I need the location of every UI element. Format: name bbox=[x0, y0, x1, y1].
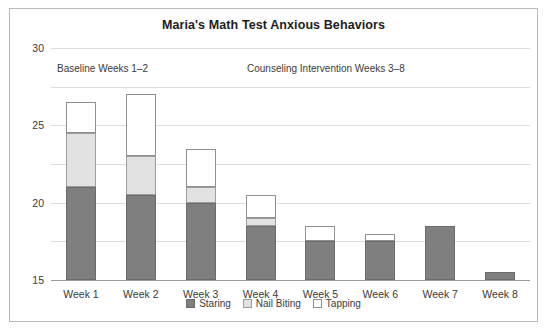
bar-segment-staring[interactable] bbox=[365, 241, 395, 280]
bar-group[interactable]: Week 8 bbox=[485, 48, 515, 280]
bar-segment-nail-biting[interactable] bbox=[126, 156, 156, 195]
gridline: 15 bbox=[51, 164, 530, 165]
plot-area: 051015202530 Baseline Weeks 1–2 Counseli… bbox=[51, 48, 530, 280]
bar-segment-tapping[interactable] bbox=[246, 195, 276, 218]
chart-legend: StaringNail BitingTapping bbox=[10, 298, 537, 309]
legend-item[interactable]: Tapping bbox=[313, 298, 361, 309]
bar-segment-nail-biting[interactable] bbox=[66, 133, 96, 187]
bar-stack[interactable] bbox=[425, 226, 455, 280]
bar-group[interactable]: Week 6 bbox=[365, 48, 395, 280]
legend-swatch-icon bbox=[186, 299, 195, 308]
bar-stack[interactable] bbox=[246, 195, 276, 280]
gridline: 10 bbox=[51, 203, 530, 204]
legend-swatch-icon bbox=[243, 299, 252, 308]
legend-label: Staring bbox=[199, 298, 231, 309]
bar-segment-staring[interactable] bbox=[305, 241, 335, 280]
bar-segment-staring[interactable] bbox=[126, 195, 156, 280]
gridline: 20 bbox=[51, 125, 530, 126]
y-axis-tick-label: 20 bbox=[32, 197, 44, 209]
chart-title: Maria's Math Test Anxious Behaviors bbox=[10, 18, 537, 32]
bar-group[interactable]: Week 7 bbox=[425, 48, 455, 280]
bar-stack[interactable] bbox=[305, 226, 335, 280]
bar-group[interactable]: Week 4 bbox=[246, 48, 276, 280]
chart-figure: Maria's Math Test Anxious Behaviors 0510… bbox=[9, 8, 538, 322]
legend-label: Nail Biting bbox=[256, 298, 301, 309]
bar-segment-staring[interactable] bbox=[425, 226, 455, 280]
bar-stack[interactable] bbox=[365, 234, 395, 280]
gridline: 5 bbox=[51, 241, 530, 242]
bar-segment-tapping[interactable] bbox=[126, 94, 156, 156]
legend-item[interactable]: Nail Biting bbox=[243, 298, 301, 309]
bar-group[interactable]: Week 2 bbox=[126, 48, 156, 280]
bar-segment-tapping[interactable] bbox=[305, 226, 335, 241]
gridline: 30 bbox=[51, 48, 530, 49]
y-axis-tick-label: 15 bbox=[32, 274, 44, 286]
legend-item[interactable]: Staring bbox=[186, 298, 231, 309]
bar-stack[interactable] bbox=[485, 272, 515, 280]
legend-label: Tapping bbox=[326, 298, 361, 309]
bar-segment-staring[interactable] bbox=[485, 272, 515, 280]
gridline: 25 bbox=[51, 87, 530, 88]
bar-stack[interactable] bbox=[186, 149, 216, 280]
y-axis-tick-label: 25 bbox=[32, 119, 44, 131]
bar-segment-nail-biting[interactable] bbox=[246, 218, 276, 226]
bar-group[interactable]: Week 1 bbox=[66, 48, 96, 280]
bar-segment-staring[interactable] bbox=[186, 203, 216, 280]
bar-segment-tapping[interactable] bbox=[186, 149, 216, 188]
legend-swatch-icon bbox=[313, 299, 322, 308]
y-axis-tick-label: 30 bbox=[32, 42, 44, 54]
bar-segment-tapping[interactable] bbox=[66, 102, 96, 133]
bar-stack[interactable] bbox=[126, 94, 156, 280]
bar-segment-nail-biting[interactable] bbox=[186, 187, 216, 202]
bar-segment-staring[interactable] bbox=[246, 226, 276, 280]
bar-segment-tapping[interactable] bbox=[365, 234, 395, 242]
bar-stack[interactable] bbox=[66, 102, 96, 280]
bar-segment-staring[interactable] bbox=[66, 187, 96, 280]
bar-group[interactable]: Week 3 bbox=[186, 48, 216, 280]
gridline: 0 bbox=[51, 280, 530, 281]
bar-group[interactable]: Week 5 bbox=[305, 48, 335, 280]
